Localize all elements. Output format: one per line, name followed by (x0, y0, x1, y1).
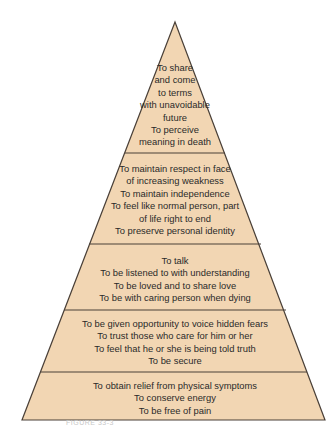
tier-line: To be secure (35, 355, 315, 367)
tier-line: of life right to end (75, 213, 275, 225)
tier-3: To talk To be listened to with understan… (55, 255, 295, 305)
tier-line: with unavoidable (110, 99, 240, 111)
tier-line: To maintain independence (75, 188, 275, 200)
tier-line: To be loved and to share love (55, 280, 295, 292)
tier-line: To conserve energy (25, 392, 325, 404)
tier-line: To be with caring person when dying (55, 292, 295, 304)
tier-line: To trust those who care for him or her (35, 330, 315, 342)
tier-line: To be given opportunity to voice hidden … (35, 318, 315, 330)
figure-caption: FIGURE 33-3 (66, 419, 114, 426)
tier-line: To talk (55, 255, 295, 267)
tier-line: of increasing weakness (75, 175, 275, 187)
tier-line: To feel that he or she is being told tru… (35, 343, 315, 355)
tier-line: To preserve personal identity (75, 225, 275, 237)
tier-line: and come (110, 74, 240, 86)
tier-4: To maintain respect in face of increasin… (75, 163, 275, 237)
tier-line: To obtain relief from physical symptoms (25, 380, 325, 392)
tier-line: future (110, 112, 240, 124)
tier-line: To perceive (110, 124, 240, 136)
tier-line: To be free of pain (25, 405, 325, 417)
tier-5-top: To share and come to terms with unavoida… (110, 62, 240, 149)
tier-line: To share (110, 62, 240, 74)
tier-1-base: To obtain relief from physical symptoms … (25, 380, 325, 417)
tier-line: To feel like normal person, part (75, 200, 275, 212)
tier-line: to terms (110, 87, 240, 99)
tier-line: meaning in death (110, 136, 240, 148)
tier-2: To be given opportunity to voice hidden … (35, 318, 315, 368)
tier-line: To maintain respect in face (75, 163, 275, 175)
tier-line: To be listened to with understanding (55, 267, 295, 279)
